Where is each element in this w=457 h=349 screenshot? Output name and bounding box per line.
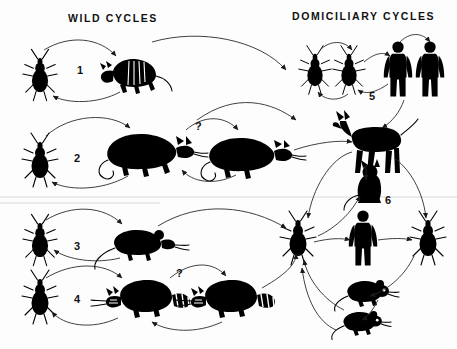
cycle-label-3: 3 — [74, 240, 80, 252]
bug-3-silhouette — [23, 214, 57, 265]
bug-5a-silhouette — [299, 46, 331, 95]
cycle-label-5: 5 — [369, 90, 375, 102]
human-6-silhouette — [349, 210, 378, 265]
opossum-2a-silhouette — [99, 134, 208, 179]
header-wild-cycles: WILD CYCLES — [68, 12, 158, 24]
bug-1-silhouette — [23, 49, 57, 100]
cycle-label-1: 1 — [77, 64, 83, 76]
cat-6-silhouette — [344, 159, 381, 210]
rat-3-silhouette — [95, 230, 189, 269]
cycle-label-6: 6 — [385, 194, 391, 206]
question-mark-row4: ? — [176, 267, 183, 279]
raccoon-4a-silhouette — [91, 280, 190, 318]
bug-2-silhouette — [22, 133, 58, 187]
diagram-canvas: .ar{fill:none;stroke:#2b2b2b;stroke-widt… — [0, 0, 457, 349]
human-5a-silhouette — [384, 41, 413, 96]
human-5b-silhouette — [416, 41, 445, 96]
bug-6b-silhouette — [410, 211, 446, 265]
mouse-6a-silhouette — [335, 280, 399, 311]
raccoon-4b-silhouette — [176, 280, 275, 318]
bug-6a-silhouette — [280, 211, 316, 265]
cycle-label-2: 2 — [74, 152, 80, 164]
cycle-label-4: 4 — [74, 293, 80, 305]
header-domiciliary-cycles: DOMICILIARY CYCLES — [292, 10, 435, 22]
opossum-2b-silhouette — [201, 138, 306, 181]
transmission-cycle-figure: .ar{fill:none;stroke:#2b2b2b;stroke-widt… — [0, 0, 457, 349]
armadillo-1-silhouette — [100, 59, 172, 94]
bug-5b-silhouette — [333, 46, 365, 95]
question-mark-row2: ? — [195, 120, 202, 132]
mouse-6b-silhouette — [332, 311, 391, 340]
bug-4-silhouette — [22, 270, 58, 324]
